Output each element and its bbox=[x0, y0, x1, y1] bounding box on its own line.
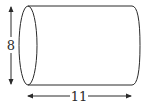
height-dimension: 8 bbox=[7, 7, 15, 84]
cylinder-left-face bbox=[19, 6, 37, 85]
cylinder-shape bbox=[19, 6, 140, 85]
cylinder-diagram: 8 11 bbox=[0, 0, 141, 105]
length-dimension: 11 bbox=[28, 89, 131, 104]
height-label: 8 bbox=[7, 38, 15, 53]
cylinder-right-face bbox=[132, 6, 140, 85]
length-label: 11 bbox=[71, 89, 88, 104]
